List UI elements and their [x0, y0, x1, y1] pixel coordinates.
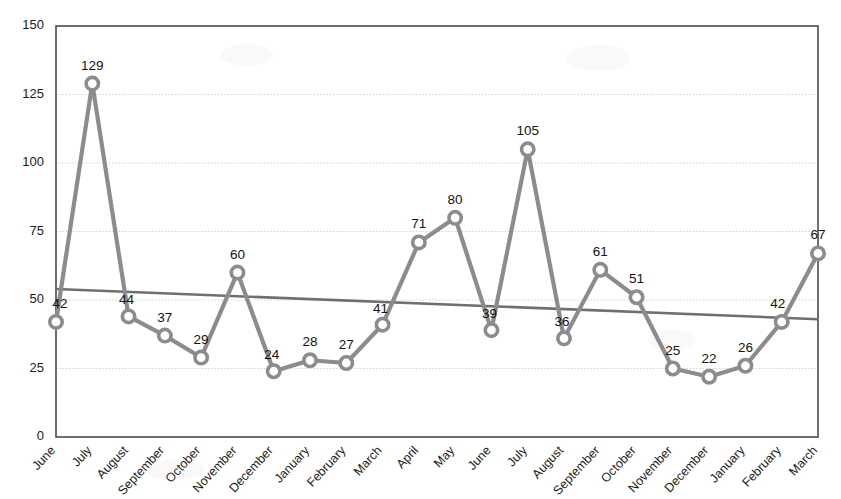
y-tick-label: 100 — [22, 154, 44, 169]
data-point-label: 67 — [810, 227, 825, 242]
data-point-marker — [376, 318, 388, 330]
data-point-marker — [268, 365, 280, 377]
data-point-marker — [667, 362, 679, 374]
data-point-marker — [86, 77, 98, 89]
data-point-label: 42 — [52, 296, 67, 311]
data-point-label: 22 — [702, 351, 717, 366]
data-point-marker — [304, 354, 316, 366]
data-point-label: 51 — [629, 271, 644, 286]
data-point-label: 24 — [264, 347, 280, 362]
data-point-label: 28 — [302, 334, 317, 349]
data-point-label: 105 — [516, 123, 539, 138]
data-point-label: 60 — [230, 247, 245, 262]
data-point-marker — [558, 332, 570, 344]
data-point-marker — [522, 143, 534, 155]
data-point-label: 39 — [482, 306, 497, 321]
data-point-label: 37 — [157, 310, 172, 325]
data-point-marker — [413, 236, 425, 248]
y-tick-label: 50 — [30, 291, 44, 306]
y-tick-label: 0 — [37, 428, 44, 443]
data-point-label: 29 — [194, 332, 209, 347]
data-point-label: 80 — [448, 192, 463, 207]
y-tick-label: 75 — [30, 223, 44, 238]
data-point-label: 129 — [81, 58, 104, 73]
data-point-label: 25 — [665, 343, 680, 358]
data-point-marker — [449, 212, 461, 224]
data-point-marker — [159, 329, 171, 341]
data-point-marker — [231, 266, 243, 278]
y-tick-label: 125 — [22, 86, 44, 101]
data-point-marker — [122, 310, 134, 322]
data-point-marker — [812, 247, 824, 259]
data-point-label: 42 — [770, 296, 785, 311]
y-tick-label: 150 — [22, 17, 44, 32]
data-point-marker — [485, 324, 497, 336]
data-point-label: 26 — [738, 340, 753, 355]
data-point-marker — [594, 264, 606, 276]
line-chart: 0255075100125150 42129443729602428274171… — [0, 0, 841, 499]
y-tick-label: 25 — [30, 360, 44, 375]
data-point-marker — [340, 357, 352, 369]
data-point-marker — [50, 316, 62, 328]
data-point-label: 36 — [554, 314, 569, 329]
data-point-marker — [776, 316, 788, 328]
data-point-label: 44 — [119, 292, 135, 307]
data-point-marker — [703, 371, 715, 383]
data-point-marker — [630, 291, 642, 303]
data-point-marker — [195, 351, 207, 363]
chart-canvas: 0255075100125150 42129443729602428274171… — [0, 0, 841, 499]
data-point-label: 41 — [373, 301, 388, 316]
data-point-label: 27 — [339, 337, 354, 352]
data-point-label: 61 — [593, 244, 608, 259]
data-point-marker — [739, 360, 751, 372]
data-point-label: 71 — [411, 216, 426, 231]
